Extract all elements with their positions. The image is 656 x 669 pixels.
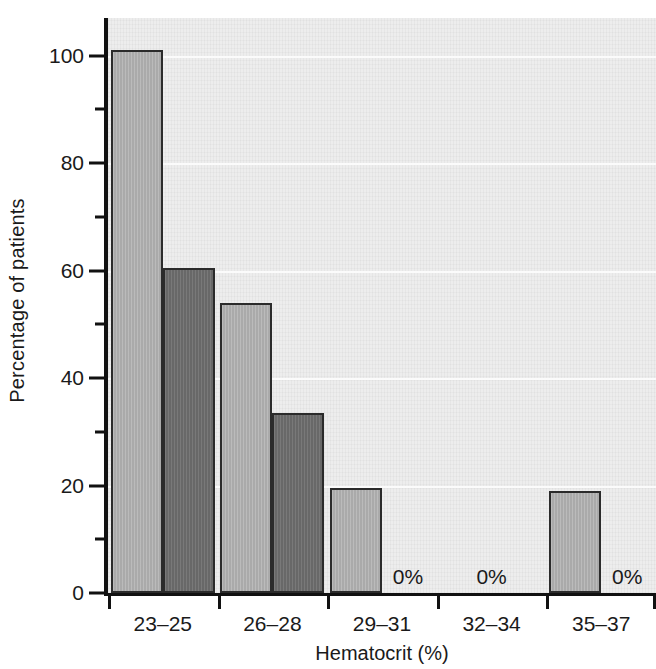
x-tick-mark bbox=[108, 596, 111, 609]
bar bbox=[163, 268, 215, 593]
gridline bbox=[108, 56, 656, 58]
gridline bbox=[108, 163, 656, 165]
bar bbox=[220, 303, 272, 593]
x-tick-mark bbox=[546, 596, 549, 609]
x-tick-mark bbox=[437, 596, 440, 609]
y-tick-label: 40 bbox=[22, 366, 84, 390]
x-tick-mark bbox=[218, 596, 221, 609]
y-tick-label: 20 bbox=[22, 474, 84, 498]
x-tick-label: 23–25 bbox=[134, 612, 192, 636]
zero-percent-label: 0% bbox=[393, 565, 423, 589]
bar-chart-figure: Percentage of patients 020406080100 0%0%… bbox=[0, 0, 656, 669]
y-tick-label: 100 bbox=[22, 44, 84, 68]
zero-percent-label: 0% bbox=[476, 565, 506, 589]
x-tick-label: 35–37 bbox=[572, 612, 630, 636]
x-axis-tick-marks bbox=[104, 596, 656, 610]
bar bbox=[272, 413, 324, 593]
bar bbox=[111, 50, 163, 593]
plot-area: 0%0%0% bbox=[108, 18, 656, 593]
bar bbox=[330, 488, 382, 593]
x-axis-tick-labels: 23–2526–2829–3132–3435–37 bbox=[108, 612, 656, 642]
bar bbox=[549, 491, 601, 593]
x-tick-label: 32–34 bbox=[462, 612, 520, 636]
x-tick-label: 26–28 bbox=[243, 612, 301, 636]
zero-percent-label: 0% bbox=[612, 565, 642, 589]
x-axis-label: Hematocrit (%) bbox=[108, 642, 656, 665]
x-tick-mark bbox=[327, 596, 330, 609]
y-tick-label: 0 bbox=[22, 581, 84, 605]
x-tick-label: 29–31 bbox=[353, 612, 411, 636]
y-axis-tick-labels: 020406080100 bbox=[20, 0, 84, 669]
y-tick-label: 80 bbox=[22, 151, 84, 175]
y-tick-label: 60 bbox=[22, 259, 84, 283]
